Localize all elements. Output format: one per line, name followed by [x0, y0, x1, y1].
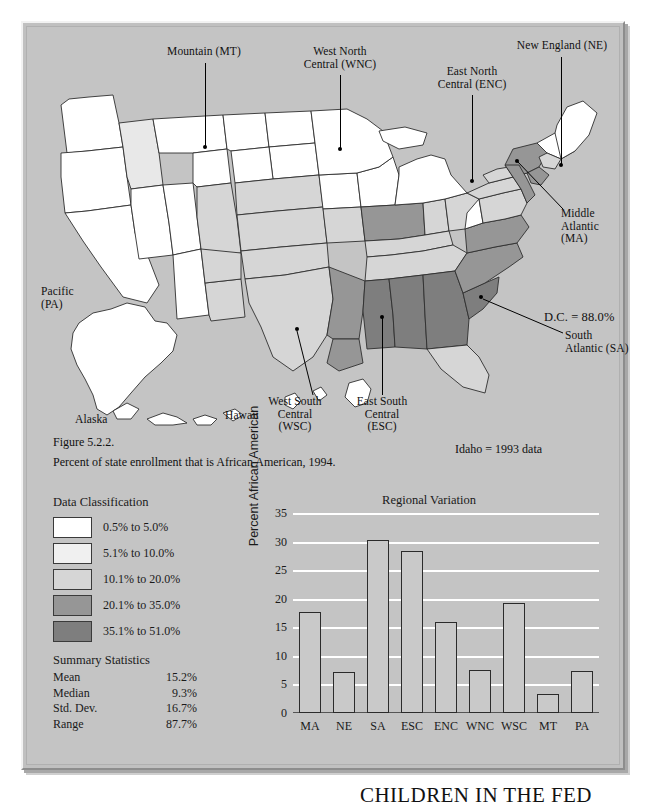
leader-dot-ma	[515, 159, 519, 163]
map-note-dc: D.C. = 88.0%	[544, 311, 614, 324]
leader-line-ma	[511, 157, 571, 217]
map-label-south-atlantic: South Atlantic (SA)	[565, 329, 645, 354]
chart-bar-MA	[299, 612, 320, 713]
map-label-east-south-central: East South Central (ESC)	[332, 395, 432, 433]
chart-bar-PA	[571, 671, 592, 713]
chart-x-label-MA: MA	[293, 719, 327, 734]
legend-item: 5.1% to 10.0%	[53, 543, 243, 564]
chart-bar-MT	[537, 694, 558, 713]
legend-item: 20.1% to 35.0%	[53, 595, 243, 616]
map-label-pacific: Pacific (PA)	[41, 285, 111, 310]
chart-x-label-WNC: WNC	[463, 719, 497, 734]
leader-dot-mountain	[203, 145, 207, 149]
map-label-east-north-central: East North Central (ENC)	[417, 65, 527, 90]
figure-note-idaho: Idaho = 1993 data	[455, 442, 542, 457]
map-label-new-england: New England (NE)	[497, 39, 627, 52]
chart-y-tick-20: 20	[275, 591, 287, 606]
chart-x-label-WSC: WSC	[497, 719, 531, 734]
leader-line-ne	[561, 57, 562, 165]
leader-dot-wsc	[295, 327, 299, 331]
chart-y-tick-0: 0	[281, 706, 287, 721]
legend-swatch-2	[53, 569, 92, 590]
leader-line-esc	[382, 317, 383, 395]
leader-dot-esc	[380, 315, 384, 319]
legend-swatch-3	[53, 595, 92, 616]
legend-label-4: 35.1% to 51.0%	[103, 624, 180, 639]
chart-y-tick-35: 35	[275, 506, 287, 521]
map-label-west-north-central: West North Central (WNC)	[285, 45, 395, 70]
summary-key-median: Median	[53, 686, 137, 702]
chart-x-label-MT: MT	[531, 719, 565, 734]
summary-value-std-dev: 16.7%	[137, 701, 197, 717]
summary-row: Mean 15.2%	[53, 670, 243, 686]
chart-bar-SA	[367, 540, 388, 713]
chart-gridline	[293, 513, 599, 515]
chart-bar-WNC	[469, 670, 490, 713]
chart-x-label-PA: PA	[565, 719, 599, 734]
leader-dot-enc	[470, 179, 474, 183]
summary-value-range: 87.7%	[137, 717, 197, 733]
leader-line-mountain	[205, 63, 206, 147]
summary-row: Median 9.3%	[53, 686, 243, 702]
summary-statistics-title: Summary Statistics	[53, 653, 243, 668]
legend-swatch-4	[53, 621, 92, 642]
us-map-svg	[27, 27, 621, 427]
chart-bar-ESC	[401, 551, 422, 713]
summary-row: Std. Dev. 16.7%	[53, 701, 243, 717]
summary-value-median: 9.3%	[137, 686, 197, 702]
legend-item: 10.1% to 20.0%	[53, 569, 243, 590]
regional-variation-chart: Regional Variation Percent African Ameri…	[253, 493, 605, 761]
legend-panel: Data Classification 0.5% to 5.0% 5.1% to…	[53, 495, 243, 732]
legend-item: 35.1% to 51.0%	[53, 621, 243, 642]
summary-key-range: Range	[53, 717, 137, 733]
legend-label-3: 20.1% to 35.0%	[103, 598, 180, 613]
legend-label-1: 5.1% to 10.0%	[103, 546, 174, 561]
map-label-middle-atlantic: Middle Atlantic (MA)	[561, 207, 631, 245]
figure-caption: Percent of state enrollment that is Afri…	[53, 455, 336, 470]
figure-plate-inner: Mountain (MT) West North Central (WNC) E…	[26, 26, 620, 765]
figure-number: Figure 5.2.2.	[53, 435, 114, 450]
legend-label-2: 10.1% to 20.0%	[103, 572, 180, 587]
leader-dot-wnc	[338, 147, 342, 151]
figure-plate: Mountain (MT) West North Central (WNC) E…	[21, 21, 625, 770]
chart-y-tick-15: 15	[275, 620, 287, 635]
chart-x-label-SA: SA	[361, 719, 395, 734]
summary-key-mean: Mean	[53, 670, 137, 686]
legend-swatch-0	[53, 517, 92, 538]
chart-y-axis-label: Percent African American	[247, 401, 261, 551]
chart-x-label-ESC: ESC	[395, 719, 429, 734]
legend-swatch-1	[53, 543, 92, 564]
chart-plot-area: 05101520253035MANESAESCENCWNCWSCMTPA	[293, 513, 599, 713]
legend-title: Data Classification	[53, 495, 243, 510]
leader-line-wnc	[340, 75, 341, 149]
chart-y-tick-25: 25	[275, 563, 287, 578]
leader-line-enc	[472, 95, 473, 181]
map-label-alaska: Alaska	[75, 413, 108, 426]
chart-y-tick-10: 10	[275, 648, 287, 663]
legend-label-0: 0.5% to 5.0%	[103, 520, 168, 535]
summary-key-std-dev: Std. Dev.	[53, 701, 137, 717]
summary-value-mean: 15.2%	[137, 670, 197, 686]
chart-bar-ENC	[435, 622, 456, 713]
chart-y-tick-30: 30	[275, 534, 287, 549]
chart-bar-NE	[333, 672, 354, 713]
leader-dot-sa	[479, 295, 483, 299]
chart-x-label-ENC: ENC	[429, 719, 463, 734]
chart-y-tick-5: 5	[281, 677, 287, 692]
leader-line-wsc	[295, 327, 319, 397]
chart-title: Regional Variation	[253, 493, 605, 508]
chart-x-label-NE: NE	[327, 719, 361, 734]
chart-bar-WSC	[503, 603, 524, 713]
chart-gridline	[293, 570, 599, 572]
summary-row: Range 87.7%	[53, 717, 243, 733]
chart-gridline	[293, 599, 599, 601]
running-head: CHILDREN IN THE FED	[360, 783, 592, 803]
legend-item: 0.5% to 5.0%	[53, 517, 243, 538]
choropleth-map: Mountain (MT) West North Central (WNC) E…	[27, 27, 621, 427]
chart-gridline	[293, 542, 599, 544]
map-label-mountain: Mountain (MT)	[139, 45, 269, 58]
